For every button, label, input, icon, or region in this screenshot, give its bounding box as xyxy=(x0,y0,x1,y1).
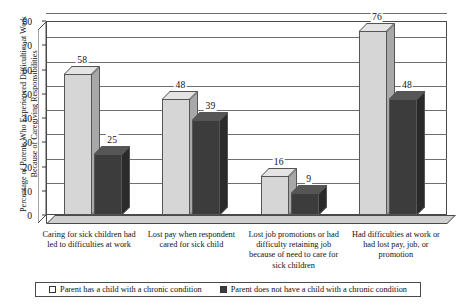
bar-front-face xyxy=(64,74,92,215)
plot-floor xyxy=(46,215,456,224)
bar-series2 xyxy=(94,154,122,215)
legend-item[interactable]: Parent has a child with a chronic condit… xyxy=(49,285,202,294)
bar-front-face xyxy=(192,120,220,215)
x-axis-category-labels: Caring for sick children had led to diff… xyxy=(38,230,447,274)
y-axis-tick-label: 80 xyxy=(22,16,32,27)
y-axis-tick-label: 50 xyxy=(22,88,32,99)
y-axis-tick-label: 40 xyxy=(22,113,32,124)
bar-front-face xyxy=(359,31,387,215)
bar-value-label: 16 xyxy=(272,156,285,167)
x-axis-category-label: Had difficulties at work or had lost pay… xyxy=(345,230,447,274)
y-axis-tick-label: 70 xyxy=(22,40,32,51)
legend-item[interactable]: Parent does not have a child with a chro… xyxy=(220,285,407,294)
y-axis-tick-label: 30 xyxy=(22,137,32,148)
bar-series2 xyxy=(291,193,319,215)
bar-side-face xyxy=(220,112,228,215)
bar-front-face xyxy=(162,99,190,215)
bar-front-face xyxy=(94,154,122,215)
bar-series2 xyxy=(389,99,417,215)
x-axis-category-label: Lost pay when respondent cared for sick … xyxy=(140,230,242,274)
chart-legend: Parent has a child with a chronic condit… xyxy=(35,282,421,297)
bar-value-label: 48 xyxy=(401,79,414,90)
y-axis-tick-label: 0 xyxy=(27,210,32,221)
bar-front-face xyxy=(389,99,417,215)
legend-swatch-dark xyxy=(220,286,227,293)
plot-area: 01020304050607080 582548391697648 xyxy=(38,12,447,224)
bar-side-face xyxy=(122,146,130,215)
y-axis-tick-label: 20 xyxy=(22,161,32,172)
gridline xyxy=(46,13,447,14)
x-axis-category-label: Lost job promotions or had difficulty re… xyxy=(243,230,345,274)
legend-swatch-light xyxy=(49,286,56,293)
bar-value-label: 76 xyxy=(371,11,384,22)
bar-value-label: 39 xyxy=(204,100,217,111)
x-axis-category-label: Caring for sick children had led to diff… xyxy=(38,230,140,274)
bar-series1 xyxy=(162,99,190,215)
legend-label: Parent has a child with a chronic condit… xyxy=(60,285,202,294)
bar-value-label: 25 xyxy=(106,134,119,145)
bar-value-label: 48 xyxy=(174,79,187,90)
y-axis-tick-label: 60 xyxy=(22,64,32,75)
bar-side-face xyxy=(417,91,425,215)
bar-series1 xyxy=(64,74,92,215)
bar-value-label: 58 xyxy=(76,54,89,65)
bar-series1 xyxy=(261,176,289,215)
bar-series1 xyxy=(359,31,387,215)
bar-front-face xyxy=(291,193,319,215)
legend-label: Parent does not have a child with a chro… xyxy=(231,285,407,294)
bar-series2 xyxy=(192,120,220,215)
y-axis-line xyxy=(46,21,47,224)
bar-value-label: 9 xyxy=(305,173,313,184)
bar-front-face xyxy=(261,176,289,215)
y-axis-tick-label: 10 xyxy=(22,185,32,196)
